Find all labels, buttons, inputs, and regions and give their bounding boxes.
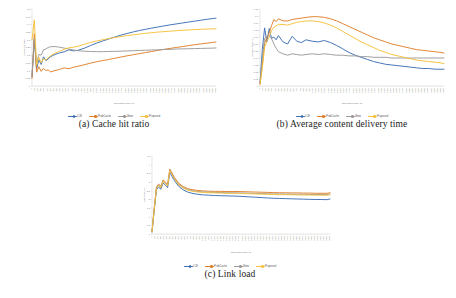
svg-text:480: 480 [174, 235, 176, 239]
svg-text:1740: 1740 [120, 87, 122, 92]
svg-text:3300: 3300 [316, 235, 318, 240]
svg-text:3420: 3420 [322, 235, 324, 240]
svg-text:3060: 3060 [304, 235, 306, 240]
svg-text:0: 0 [258, 87, 260, 89]
chart-svg-c: 00.511.522.533.544.5Link load (%)0601201… [118, 150, 342, 266]
svg-text:0.05: 0.05 [26, 77, 31, 80]
svg-text:3240: 3240 [198, 87, 200, 92]
svg-text:1380: 1380 [330, 87, 332, 92]
svg-text:3000: 3000 [186, 87, 188, 92]
svg-text:3: 3 [149, 181, 151, 184]
svg-text:1800: 1800 [124, 87, 126, 92]
svg-text:2220: 2220 [373, 87, 375, 92]
svg-text:1680: 1680 [234, 235, 236, 240]
svg-text:3180: 3180 [310, 235, 312, 240]
svg-text:4.5: 4.5 [147, 155, 151, 158]
svg-text:1320: 1320 [216, 235, 218, 240]
svg-text:0.11: 0.11 [254, 8, 259, 11]
svg-text:540: 540 [58, 87, 60, 91]
svg-text:2100: 2100 [256, 235, 258, 240]
svg-text:2400: 2400 [271, 235, 273, 240]
svg-text:900: 900 [305, 87, 307, 91]
svg-text:720: 720 [67, 87, 69, 91]
svg-text:1260: 1260 [213, 235, 215, 240]
svg-text:1080: 1080 [86, 87, 88, 92]
svg-text:480: 480 [55, 87, 57, 91]
svg-text:2100: 2100 [367, 87, 369, 92]
svg-text:600: 600 [180, 235, 182, 239]
svg-text:1800: 1800 [352, 87, 354, 92]
svg-text:840: 840 [302, 87, 304, 91]
svg-text:4: 4 [149, 164, 151, 167]
svg-text:2700: 2700 [170, 87, 172, 92]
svg-text:2460: 2460 [158, 87, 160, 92]
svg-text:2460: 2460 [274, 235, 276, 240]
svg-text:0.05: 0.05 [254, 50, 259, 53]
svg-text:0.02: 0.02 [254, 71, 259, 74]
svg-text:240: 240 [42, 87, 44, 91]
svg-text:240: 240 [162, 235, 164, 239]
svg-text:3360: 3360 [319, 235, 321, 240]
svg-text:2280: 2280 [149, 87, 151, 92]
svg-text:1440: 1440 [105, 87, 107, 92]
svg-text:1440: 1440 [333, 87, 335, 92]
svg-text:1440: 1440 [222, 235, 224, 240]
svg-text:2040: 2040 [136, 87, 138, 92]
svg-text:960: 960 [80, 87, 82, 91]
svg-text:Simulation time (s): Simulation time (s) [342, 102, 363, 105]
svg-text:420: 420 [171, 235, 173, 239]
plot-area-c: 00.511.522.533.544.5Link load (%)0601201… [118, 150, 342, 266]
panel-link-load: 00.511.522.533.544.5Link load (%)0601201… [118, 150, 342, 294]
svg-text:0.1: 0.1 [27, 70, 31, 73]
svg-text:60: 60 [33, 87, 35, 90]
svg-text:2640: 2640 [167, 87, 169, 92]
svg-text:2280: 2280 [265, 235, 267, 240]
svg-text:300: 300 [165, 235, 167, 239]
svg-text:660: 660 [292, 87, 294, 91]
svg-text:Simulation time (s): Simulation time (s) [231, 251, 252, 254]
svg-text:60: 60 [261, 87, 263, 90]
svg-text:2880: 2880 [180, 87, 182, 92]
svg-text:3300: 3300 [202, 87, 204, 92]
svg-text:1500: 1500 [108, 87, 110, 92]
svg-text:2760: 2760 [173, 87, 175, 92]
svg-text:2940: 2940 [298, 235, 300, 240]
svg-text:1620: 1620 [114, 87, 116, 92]
svg-text:1740: 1740 [348, 87, 350, 92]
svg-text:1860: 1860 [244, 235, 246, 240]
svg-text:840: 840 [74, 87, 76, 91]
svg-text:0.04: 0.04 [254, 57, 259, 60]
svg-text:360: 360 [49, 87, 51, 91]
svg-text:2: 2 [149, 198, 151, 201]
svg-text:3480: 3480 [211, 87, 213, 92]
svg-text:1920: 1920 [130, 87, 132, 92]
svg-text:2940: 2940 [411, 87, 413, 92]
svg-text:1260: 1260 [323, 87, 325, 92]
svg-text:1020: 1020 [83, 87, 85, 92]
svg-text:300: 300 [46, 87, 48, 91]
svg-text:2820: 2820 [177, 87, 179, 92]
svg-text:2580: 2580 [392, 87, 394, 92]
svg-text:3540: 3540 [442, 87, 444, 92]
panel-cache-hit-ratio: 00.050.10.150.20.250.30.350.40.450.5Cach… [6, 4, 222, 144]
svg-text:2160: 2160 [142, 87, 144, 92]
svg-text:0.01: 0.01 [254, 78, 259, 81]
svg-text:0.2: 0.2 [27, 54, 31, 57]
svg-text:3180: 3180 [423, 87, 425, 92]
svg-text:0: 0 [257, 85, 259, 88]
svg-text:3540: 3540 [328, 235, 330, 240]
svg-text:420: 420 [280, 87, 282, 91]
svg-text:3000: 3000 [414, 87, 416, 92]
svg-text:2520: 2520 [277, 235, 279, 240]
chart-svg-b: 00.010.020.030.040.050.060.070.080.090.1… [234, 4, 450, 116]
svg-text:0: 0 [30, 87, 32, 89]
svg-text:2640: 2640 [283, 235, 285, 240]
svg-text:1560: 1560 [228, 235, 230, 240]
panel-average-content-delivery-time: 00.010.020.030.040.050.060.070.080.090.1… [234, 4, 450, 144]
svg-text:2.5: 2.5 [147, 190, 151, 193]
svg-text:660: 660 [64, 87, 66, 91]
svg-text:3480: 3480 [325, 235, 327, 240]
svg-text:2100: 2100 [139, 87, 141, 92]
svg-text:2280: 2280 [377, 87, 379, 92]
svg-text:0.25: 0.25 [26, 46, 31, 49]
